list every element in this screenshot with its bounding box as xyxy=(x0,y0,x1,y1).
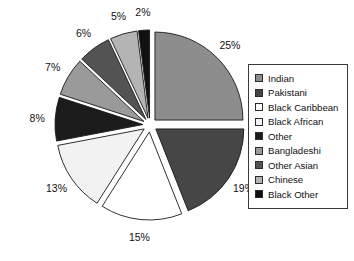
pie-label-chinese: 5% xyxy=(111,10,126,22)
legend-label-other: Other xyxy=(268,131,292,142)
legend-item-other[interactable]: Other xyxy=(255,129,342,143)
pie-label-bangladeshi: 7% xyxy=(45,61,60,73)
legend-item-bangladeshi[interactable]: Bangladeshi xyxy=(255,144,342,158)
legend-item-black-other[interactable]: Black Other xyxy=(255,187,342,201)
legend-swatch-pakistani xyxy=(255,89,263,97)
chart-legend: Indian Pakistani Black Caribbean Black A… xyxy=(248,64,348,209)
pie-label-black-caribbean: 15% xyxy=(129,231,150,243)
legend-item-other-asian[interactable]: Other Asian xyxy=(255,158,342,172)
legend-label-black-other: Black Other xyxy=(268,189,318,200)
pie-label-other: 8% xyxy=(30,112,45,124)
legend-item-pakistani[interactable]: Pakistani xyxy=(255,86,342,100)
legend-label-indian: Indian xyxy=(268,73,294,84)
pie-chart-figure: 25%19%15%13%8%7%6%5%2% Indian Pakistani … xyxy=(0,0,354,261)
pie-label-black-african: 13% xyxy=(46,182,67,194)
legend-swatch-black-other xyxy=(255,190,263,198)
legend-item-black-caribbean[interactable]: Black Caribbean xyxy=(255,100,342,114)
legend-item-chinese[interactable]: Chinese xyxy=(255,173,342,187)
legend-label-chinese: Chinese xyxy=(268,174,303,185)
pie-label-indian: 25% xyxy=(219,39,240,51)
legend-swatch-other xyxy=(255,132,263,140)
legend-label-bangladeshi: Bangladeshi xyxy=(268,145,321,156)
legend-label-black-african: Black African xyxy=(268,116,323,127)
pie-label-other-asian: 6% xyxy=(76,27,91,39)
legend-swatch-chinese xyxy=(255,176,263,184)
legend-swatch-black-caribbean xyxy=(255,103,263,111)
legend-label-pakistani: Pakistani xyxy=(268,87,307,98)
pie-slices-group xyxy=(55,30,244,220)
legend-item-black-african[interactable]: Black African xyxy=(255,115,342,129)
legend-item-indian[interactable]: Indian xyxy=(255,71,342,85)
legend-swatch-black-african xyxy=(255,118,263,126)
legend-swatch-bangladeshi xyxy=(255,147,263,155)
legend-label-other-asian: Other Asian xyxy=(268,160,318,171)
pie-label-black-other: 2% xyxy=(135,6,150,18)
legend-swatch-other-asian xyxy=(255,161,263,169)
legend-swatch-indian xyxy=(255,74,263,82)
legend-label-black-caribbean: Black Caribbean xyxy=(268,102,338,113)
